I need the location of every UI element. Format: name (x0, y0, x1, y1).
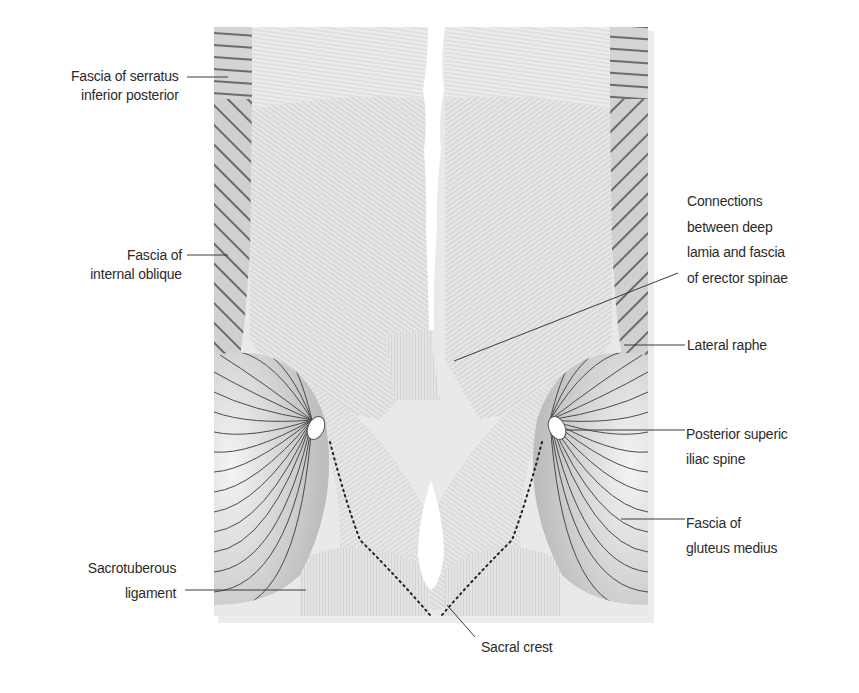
label-line: Fascia of (686, 510, 777, 535)
label-line: Lateral raphe (687, 336, 767, 355)
label-line: Sacral crest (481, 638, 552, 657)
label-line: inferior posterior (71, 86, 179, 105)
label-psis: Posterior superic iliac spine (686, 421, 788, 471)
label-line: between deep (687, 214, 788, 240)
label-line: Fascia of serratus (71, 67, 179, 86)
label-erector-connections: Connections between deep lamia and fasci… (687, 188, 788, 290)
label-line: Connections (687, 188, 788, 214)
label-line: of erector spinae (687, 265, 788, 291)
label-internal-oblique-fascia: Fascia of internal oblique (90, 246, 182, 283)
label-line: Posterior superic (686, 421, 788, 446)
label-sacrotuberous-ligament: Sacrotuberous ligament (88, 555, 176, 605)
label-line: Fascia of (90, 246, 182, 265)
label-line: Sacrotuberous (88, 555, 176, 580)
label-lateral-raphe: Lateral raphe (687, 336, 767, 355)
label-line: ligament (88, 580, 176, 605)
label-gluteus-medius-fascia: Fascia of gluteus medius (686, 510, 777, 560)
label-line: iliac spine (686, 446, 788, 471)
label-sacral-crest: Sacral crest (481, 638, 552, 657)
label-line: lamia and fascia (687, 239, 788, 265)
label-line: internal oblique (90, 265, 182, 284)
label-serratus-fascia: Fascia of serratus inferior posterior (71, 67, 179, 104)
label-line: gluteus medius (686, 535, 777, 560)
